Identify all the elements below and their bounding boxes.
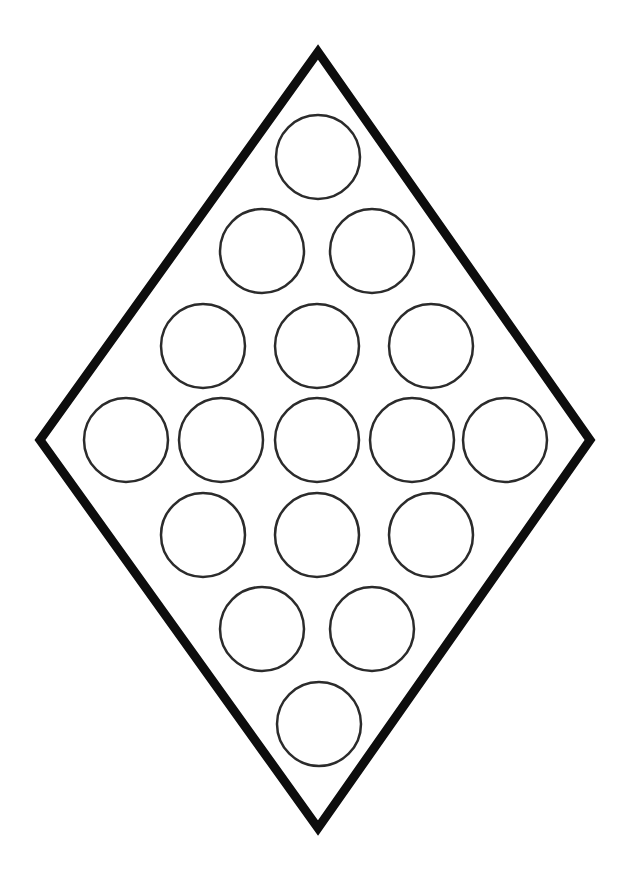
circle-r3-c3 [389, 304, 473, 388]
circle-r3-c2 [275, 304, 359, 388]
circle-r6-c1 [220, 587, 304, 671]
circle-r5-c3 [389, 493, 473, 577]
circle-r1-c1 [276, 115, 360, 199]
circle-r2-c2 [330, 209, 414, 293]
circle-r5-c1 [161, 493, 245, 577]
circle-r2-c1 [220, 209, 304, 293]
diamond-artwork [0, 0, 636, 889]
circle-r7-c1 [277, 682, 361, 766]
circle-r4-c1 [84, 398, 168, 482]
circle-r5-c2 [275, 493, 359, 577]
coloring-page-canvas: Diamond Shape Coloring Page [0, 0, 636, 889]
circle-r4-c4 [370, 398, 454, 482]
circle-r6-c2 [330, 587, 414, 671]
circle-r3-c1 [161, 304, 245, 388]
circle-r4-c3 [275, 398, 359, 482]
circle-r4-c2 [179, 398, 263, 482]
circle-r4-c5 [463, 398, 547, 482]
